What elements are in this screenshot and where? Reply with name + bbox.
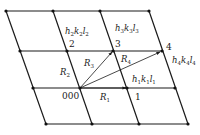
node: [147, 9, 150, 12]
plane-labels: h2k2l2 h3k3l3 h4k4l4 h1k1l1: [65, 23, 196, 85]
horizontal-lattice-lines: [6, 11, 188, 124]
lattice-diagram: 000 1 2 3 4 R1 R2 R3 R4 h2k2l2 h3k3l3 h4…: [0, 0, 200, 135]
node-1: [125, 86, 128, 89]
lattice-nodes: [4, 9, 189, 125]
node-2: [65, 49, 68, 52]
node: [4, 9, 7, 12]
label-hkl-4: h4k4l4: [172, 55, 196, 66]
label-hkl-3: h3k3l3: [115, 23, 139, 34]
slanted-lattice-lines: [6, 11, 188, 124]
label-point-4: 4: [166, 42, 172, 52]
label-r3: R3: [83, 58, 94, 69]
label-origin: 000: [62, 91, 79, 101]
label-point-2: 2: [69, 39, 75, 49]
label-r2: R2: [59, 67, 70, 78]
node: [137, 122, 140, 125]
lattice-col-3: [149, 11, 188, 124]
node: [18, 49, 21, 52]
lattice-col-0: [6, 11, 46, 124]
label-r1: R1: [99, 92, 110, 103]
node: [98, 9, 101, 12]
node: [31, 86, 34, 89]
node-4: [160, 49, 163, 52]
node: [51, 9, 54, 12]
node-3: [111, 49, 114, 52]
label-hkl-2: h2k2l2: [65, 26, 89, 37]
node-origin: [78, 86, 81, 89]
label-point-3: 3: [115, 39, 121, 49]
label-point-1: 1: [135, 92, 141, 102]
node: [44, 122, 47, 125]
label-hkl-1: h1k1l1: [132, 74, 156, 85]
point-labels: 000 1 2 3 4: [62, 39, 172, 102]
label-r4: R4: [120, 54, 131, 65]
node: [186, 122, 189, 125]
node: [173, 86, 176, 89]
node: [90, 122, 93, 125]
